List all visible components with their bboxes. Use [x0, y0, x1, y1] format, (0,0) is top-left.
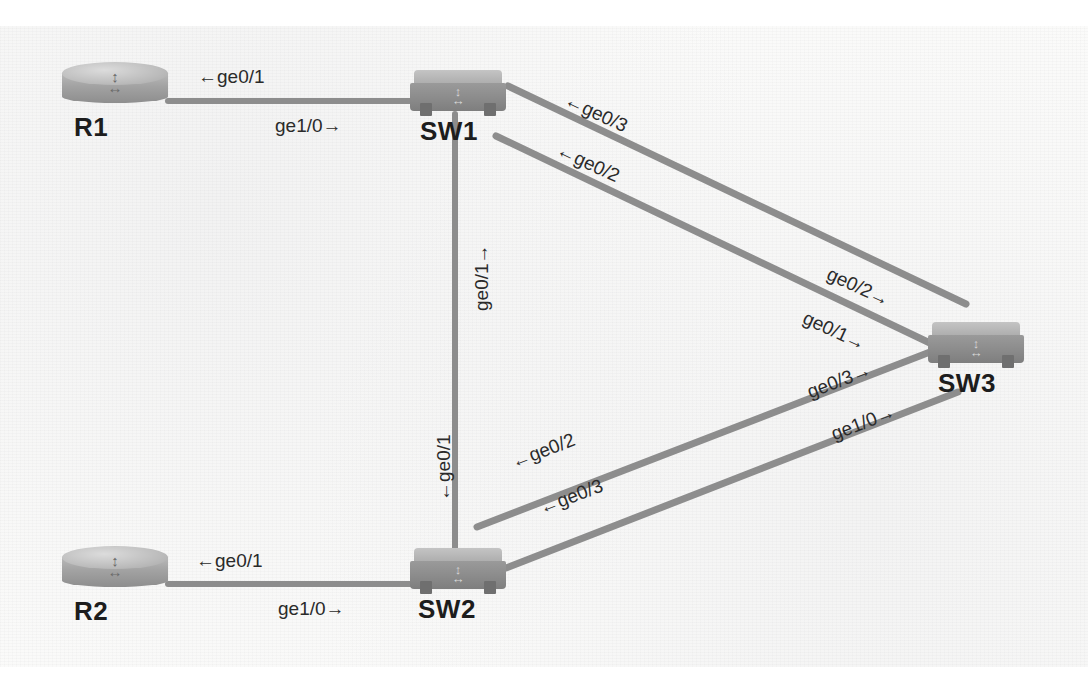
- topology-diagram: ←ge0/1ge1/0→ge0/1→←ge0/1←ge0/3ge0/2→←ge0…: [0, 0, 1088, 689]
- node-sw1[interactable]: ↕↔: [410, 70, 506, 112]
- switch-port-left: [420, 103, 432, 116]
- node-label-sw2: SW2: [418, 594, 476, 625]
- router-icon: ↕↔: [62, 546, 168, 590]
- node-label-r1: R1: [74, 112, 108, 143]
- interface-label-sw1-sw2-sw1: ge0/1→: [471, 244, 493, 311]
- node-sw3[interactable]: ↕↔: [928, 322, 1024, 364]
- node-sw2[interactable]: ↕↔: [410, 548, 506, 590]
- switch-port-right: [1002, 355, 1014, 368]
- node-r2[interactable]: ↕↔: [62, 546, 168, 590]
- interface-label-r1-sw1-sw1: ge1/0→: [275, 115, 342, 137]
- switch-arrows-icon: ↕↔: [452, 87, 465, 105]
- switch-port-right: [484, 581, 496, 594]
- interface-label-r2-sw2-sw2: ge1/0→: [278, 598, 345, 620]
- node-label-sw1: SW1: [420, 116, 478, 147]
- router-arrows-icon: ↕↔: [108, 555, 123, 577]
- switch-icon: ↕↔: [410, 70, 506, 112]
- switch-icon: ↕↔: [410, 548, 506, 590]
- router-icon: ↕↔: [62, 62, 168, 106]
- interface-label-sw1-sw2-sw2: ←ge0/1: [433, 434, 455, 501]
- node-label-sw3: SW3: [938, 368, 996, 399]
- switch-port-left: [420, 581, 432, 594]
- link-sw1-sw3-a: [508, 86, 966, 304]
- switch-icon: ↕↔: [928, 322, 1024, 364]
- switch-arrows-icon: ↕↔: [970, 339, 983, 357]
- interface-label-r1-sw1-r1: ←ge0/1: [198, 66, 265, 88]
- node-r1[interactable]: ↕↔: [62, 62, 168, 106]
- switch-port-left: [938, 355, 950, 368]
- node-label-r2: R2: [74, 596, 108, 627]
- switch-arrows-icon: ↕↔: [452, 565, 465, 583]
- switch-port-right: [484, 103, 496, 116]
- router-arrows-icon: ↕↔: [108, 71, 123, 93]
- interface-label-r2-sw2-r2: ←ge0/1: [196, 550, 263, 572]
- link-sw1-sw3-b: [496, 136, 932, 344]
